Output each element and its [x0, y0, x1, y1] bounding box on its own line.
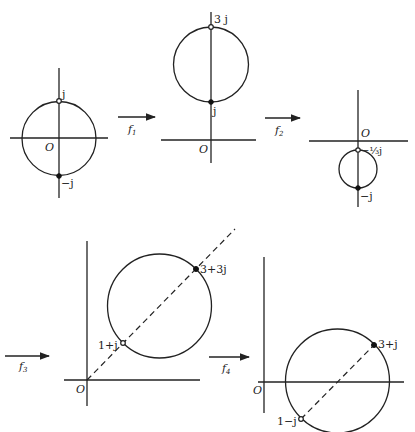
panel-after-f3: O 1+j 3+3j: [64, 229, 235, 406]
origin-label: O: [361, 127, 370, 140]
filled-point: [372, 343, 377, 348]
panel-z-plane: O j −j: [10, 68, 108, 198]
point-label: −⅓j: [361, 145, 382, 156]
origin-label: O: [253, 384, 262, 397]
panel-after-f4: O 1−j 3+j: [253, 257, 404, 432]
open-point: [299, 417, 304, 422]
point-label: −j: [360, 190, 373, 203]
arrow-f2: f2: [265, 118, 300, 138]
filled-point: [194, 267, 199, 272]
point-label: 3+3j: [200, 263, 227, 276]
point-label: 1+j: [98, 339, 118, 352]
arrow-label: f4: [221, 362, 231, 376]
open-point: [356, 148, 360, 152]
arrow-label: f3: [18, 360, 28, 374]
open-point: [57, 99, 62, 104]
arrow-f1: f1: [118, 117, 155, 137]
origin-label: O: [76, 383, 85, 396]
arrow-label: f1: [127, 123, 137, 137]
origin-label: O: [45, 141, 54, 154]
mapping-diagram: O j −j f1 O 3 j j f2 O −⅓j −j f: [0, 0, 415, 432]
point-label: j: [211, 105, 216, 118]
panel-after-f2: O −⅓j −j: [309, 90, 408, 207]
open-point: [209, 25, 214, 30]
open-point: [121, 341, 126, 346]
point-label: 1−j: [277, 415, 297, 428]
filled-point: [209, 100, 214, 105]
arrow-f4: f4: [209, 357, 249, 376]
arrow-label: f2: [274, 124, 284, 138]
point-label: 3+j: [378, 338, 398, 351]
origin-label: O: [199, 143, 208, 156]
arrow-f3: f3: [5, 356, 49, 374]
point-label: −j: [61, 177, 74, 190]
point-label: 3 j: [214, 13, 228, 26]
panel-after-f1: O 3 j j: [161, 12, 256, 163]
